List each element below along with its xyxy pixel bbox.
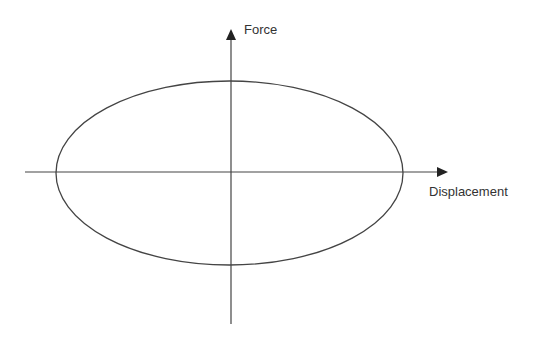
y-axis-label: Force (244, 22, 277, 37)
y-axis-arrow-icon (226, 29, 236, 40)
x-axis-label: Displacement (429, 184, 508, 199)
x-axis-arrow-icon (437, 167, 448, 177)
hysteresis-ellipse (56, 81, 403, 265)
force-displacement-diagram: Force Displacement (0, 0, 554, 342)
x-axis (25, 167, 448, 177)
y-axis (226, 29, 236, 324)
